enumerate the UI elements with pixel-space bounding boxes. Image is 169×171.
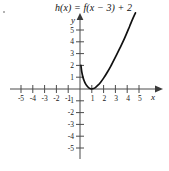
y-tick-label: -2 <box>60 109 74 117</box>
graph-screenshot: h(x) = f(x − 3) + 2 <box>0 0 169 171</box>
x-tick-label: 5 <box>133 95 147 103</box>
y-tick-label: 2 <box>60 62 74 70</box>
coordinate-plane <box>0 0 169 171</box>
y-tick-label: -3 <box>60 121 74 129</box>
y-axis-arrowhead <box>77 13 84 20</box>
x-axis-arrowhead <box>155 86 163 93</box>
y-tick-label: 3 <box>60 50 74 58</box>
y-tick-label: -1 <box>60 97 74 105</box>
function-curve <box>81 13 136 89</box>
y-tick-label: 5 <box>60 27 74 35</box>
y-tick-label: 1 <box>60 74 74 82</box>
y-axis-label: y <box>71 16 75 25</box>
plot-area: -5 -4 -3 -2 -1 1 2 3 4 5 5 4 3 2 1 -1 -2… <box>0 0 169 171</box>
y-tick-label: -4 <box>60 133 74 141</box>
x-axis-label: x <box>151 93 155 102</box>
y-tick-label: 4 <box>60 38 74 46</box>
y-tick-label: -5 <box>60 145 74 153</box>
